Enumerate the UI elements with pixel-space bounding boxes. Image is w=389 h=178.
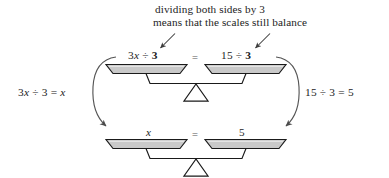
bottom-scale-fulcrum [184,159,208,176]
top-scale-beam [146,74,246,84]
bottom-balance-scale [106,140,286,177]
bottom-left-pan [106,140,187,149]
bottom-scale-beam [146,149,246,159]
top-scale-fulcrum [184,84,208,101]
bottom-right-pan [205,140,286,149]
figure-canvas: dividing both sides by 3 means that the … [0,0,389,178]
top-balance-scale [106,65,286,102]
top-right-pan [205,65,286,74]
caption-arrow-to-left-pan [161,34,176,49]
top-left-pan [106,65,187,74]
caption-arrow-to-right-pan [256,34,271,49]
diagram-graphics [0,0,389,178]
